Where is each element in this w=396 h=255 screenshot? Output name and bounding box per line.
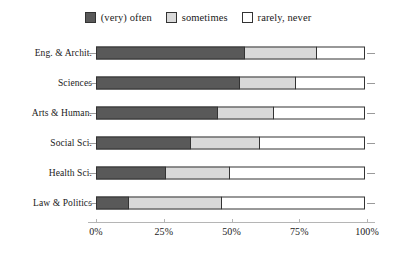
legend-label-often: (very) often	[101, 12, 152, 23]
bar-row: Eng. & Archit.	[0, 38, 396, 68]
bar-row: Social Sci.	[0, 128, 396, 158]
stacked-bar	[96, 167, 367, 180]
x-tick-label: 75%	[290, 226, 309, 238]
category-label: Health Sci.	[49, 168, 92, 179]
bar-segment-often	[96, 137, 191, 150]
bar-segment-sometimes	[128, 197, 223, 210]
bar-row: Sciences	[0, 68, 396, 98]
stacked-bar	[96, 47, 367, 60]
stacked-bar	[96, 137, 367, 150]
bar-segment-sometimes	[165, 167, 230, 180]
y-tick-mark-right	[367, 203, 375, 204]
bar-segment-rarely-never	[295, 77, 365, 90]
bar-segment-rarely-never	[221, 197, 365, 210]
bar-segment-rarely-never	[229, 167, 365, 180]
x-tick-mark	[96, 219, 97, 223]
bar-segment-sometimes	[217, 107, 274, 120]
legend-entry-often: (very) often	[85, 12, 152, 23]
y-tick-mark	[88, 173, 96, 174]
x-tick-label: 25%	[154, 226, 173, 238]
bar-segment-rarely-never	[259, 137, 365, 150]
bar-segment-often	[96, 197, 129, 210]
category-label: Social Sci.	[50, 138, 92, 149]
bar-segment-sometimes	[190, 137, 260, 150]
legend-entry-rarely-never: rarely, never	[242, 12, 312, 23]
legend-swatch-rarely-never	[242, 12, 253, 23]
category-label: Law & Politics	[33, 198, 92, 209]
stacked-bar	[96, 77, 367, 90]
y-tick-mark-right	[367, 113, 375, 114]
y-tick-mark	[88, 113, 96, 114]
x-tick-mark	[164, 219, 165, 223]
bar-segment-often	[96, 167, 166, 180]
y-tick-mark	[88, 83, 96, 84]
x-tick-mark	[232, 219, 233, 223]
y-tick-mark-right	[367, 173, 375, 174]
bar-segment-often	[96, 107, 218, 120]
bar-segment-sometimes	[239, 77, 296, 90]
category-label: Sciences	[58, 78, 92, 89]
bar-row: Arts & Human.	[0, 98, 396, 128]
x-tick-label: 100%	[355, 226, 379, 238]
legend-entry-sometimes: sometimes	[166, 12, 228, 23]
bar-segment-rarely-never	[316, 47, 365, 60]
category-label: Eng. & Archit.	[35, 48, 92, 59]
bar-segment-often	[96, 77, 240, 90]
x-tick-label: 50%	[222, 226, 241, 238]
y-tick-mark-right	[367, 143, 375, 144]
bar-segment-often	[96, 47, 245, 60]
x-tick-mark	[299, 219, 300, 223]
stacked-bar-chart: (very) often sometimes rarely, never Eng…	[0, 0, 396, 255]
y-tick-mark-right	[367, 83, 375, 84]
x-tick-mark	[367, 219, 368, 223]
bar-row: Law & Politics	[0, 188, 396, 218]
bar-segment-sometimes	[244, 47, 317, 60]
stacked-bar	[96, 107, 367, 120]
category-label: Arts & Human.	[32, 108, 92, 119]
bar-row: Health Sci.	[0, 158, 396, 188]
x-tick-label: 0%	[89, 226, 103, 238]
y-tick-mark-right	[367, 53, 375, 54]
chart-legend: (very) often sometimes rarely, never	[0, 12, 396, 23]
y-tick-mark	[88, 143, 96, 144]
legend-label-sometimes: sometimes	[182, 12, 228, 23]
bar-segment-rarely-never	[273, 107, 365, 120]
legend-swatch-often	[85, 12, 96, 23]
legend-label-rarely-never: rarely, never	[258, 12, 312, 23]
plot-area: Eng. & Archit.SciencesArts & Human.Socia…	[0, 38, 396, 218]
y-tick-mark	[88, 203, 96, 204]
legend-swatch-sometimes	[166, 12, 177, 23]
stacked-bar	[96, 197, 367, 210]
y-tick-mark	[88, 53, 96, 54]
